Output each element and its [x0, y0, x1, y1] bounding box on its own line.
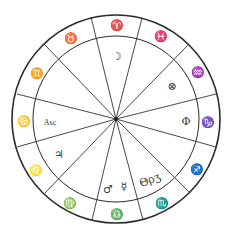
taurus-icon: ♉ [64, 32, 78, 45]
libra-icon: ♎ [110, 208, 124, 221]
jupiter-icon: ♃ [54, 148, 64, 161]
sagittarius-icon: ♐ [190, 163, 204, 176]
center-hub [114, 117, 118, 121]
spoke-cancer-gemini [17, 94, 116, 119]
spoke-aries-taurus [91, 17, 116, 119]
virgo-icon: ♍ [63, 197, 77, 210]
mercury-icon: ☿ [121, 180, 128, 193]
aries-icon: ♈ [110, 19, 124, 32]
ascendant-label: Asc [44, 118, 57, 127]
spoke-libra-virgo [92, 119, 116, 220]
spoke-leo-cancer [17, 119, 116, 147]
gemini-icon: ♊ [30, 67, 44, 80]
astrological-chart: ♈ ♓ ♒ ♑ ♐ ♏ ♎ ♍ ♌ ♋ ♊ ♉ ☽ ⊗ Φ Θρʒ ♂ ☿ ♃ … [0, 0, 233, 240]
spoke-scorpio-libra [116, 119, 143, 220]
phi-icon: Φ [181, 115, 190, 128]
scorpio-icon: ♏ [155, 197, 169, 210]
mars-icon: ♂ [103, 183, 113, 196]
spoke-pisces-aquarius [116, 45, 188, 119]
aquarius-icon: ♒ [191, 66, 205, 79]
cancer-icon: ♋ [17, 115, 31, 128]
part-of-fortune-icon: ⊗ [167, 80, 176, 93]
pisces-icon: ♓ [154, 30, 168, 43]
spoke-gemini-taurus [45, 45, 116, 119]
capricorn-icon: ♑ [201, 116, 215, 129]
moon-icon: ☽ [112, 50, 122, 63]
theta-rho-icon: Θρʒ [138, 170, 163, 190]
spoke-aries-pisces [116, 18, 142, 119]
leo-icon: ♌ [29, 164, 43, 177]
